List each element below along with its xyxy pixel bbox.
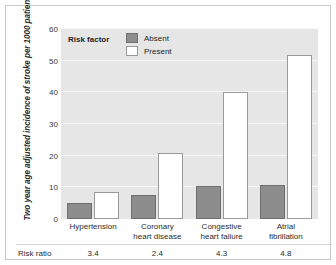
bar-present[interactable] — [158, 153, 183, 220]
risk-ratio-value: 3.4 — [61, 249, 125, 258]
category-label-line: Congestive — [202, 222, 242, 231]
bar-group — [254, 29, 318, 219]
legend-label-absent: Absent — [144, 34, 169, 43]
risk-ratio-value: 4.8 — [254, 249, 318, 258]
legend-swatch-absent — [126, 33, 138, 43]
y-tick-10: 10 — [32, 183, 58, 192]
risk-ratio-separator — [16, 244, 332, 245]
y-tick-40: 40 — [32, 88, 58, 97]
category-label: Hypertension — [61, 222, 125, 232]
bar-group — [61, 29, 125, 219]
bar-absent[interactable] — [196, 186, 221, 219]
risk-ratio-label: Risk ratio — [18, 249, 51, 258]
legend-title: Risk factor — [68, 35, 109, 44]
bar-present[interactable] — [287, 55, 312, 219]
y-axis-title: Two year age adjusted incidence of strok… — [23, 21, 32, 221]
bar-present[interactable] — [94, 192, 119, 219]
y-tick-20: 20 — [32, 151, 58, 160]
y-tick-0: 0 — [32, 215, 58, 224]
category-label: Coronaryheart disease — [125, 222, 189, 241]
figure-frame: Two year age adjusted incidence of strok… — [5, 5, 331, 260]
category-label-line: Atrial — [277, 222, 295, 231]
risk-ratio-value: 4.3 — [190, 249, 254, 258]
risk-ratio-value: 2.4 — [125, 249, 189, 258]
category-label-line: fibrillation — [269, 232, 303, 241]
category-label: Atrialfibrillation — [254, 222, 318, 241]
category-label-line: Coronary — [141, 222, 174, 231]
y-axis-tick-labels: 0102030405060 — [32, 24, 58, 224]
category-label-line: heart failure — [201, 232, 243, 241]
plot-area — [61, 29, 318, 219]
bar-group — [190, 29, 254, 219]
category-label-line: Hypertension — [70, 222, 117, 231]
bar-absent[interactable] — [67, 203, 92, 219]
category-label-line: heart disease — [133, 232, 181, 241]
bar-absent[interactable] — [260, 185, 285, 219]
figure: Two year age adjusted incidence of strok… — [0, 0, 336, 265]
legend-label-present: Present — [144, 47, 172, 56]
y-tick-60: 60 — [32, 25, 58, 34]
y-tick-50: 50 — [32, 56, 58, 65]
bar-group — [125, 29, 189, 219]
bar-absent[interactable] — [131, 195, 156, 219]
legend-swatch-present — [126, 46, 138, 56]
bar-present[interactable] — [223, 92, 248, 219]
category-label: Congestiveheart failure — [190, 222, 254, 241]
y-tick-30: 30 — [32, 120, 58, 129]
